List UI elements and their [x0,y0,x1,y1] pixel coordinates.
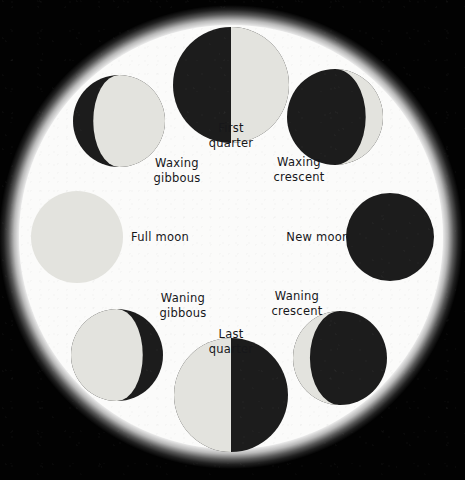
phase-label-full-moon: Full moon [131,230,189,245]
phase-label-first-quarter: Firstquarter [209,121,253,150]
phase-label-waxing-crescent: Waxingcrescent [273,155,324,184]
phase-label-waning-crescent: Waningcrescent [271,289,322,318]
phase-label-line1: First [209,121,253,136]
phase-label-line1: Waxing [153,156,200,171]
phase-label-line1: Full moon [131,230,189,245]
phase-label-line2: crescent [273,169,324,184]
moon-phase-full-moon [31,191,123,283]
phase-label-waxing-gibbous: Waxinggibbous [153,156,200,185]
phase-label-line1: Waning [271,289,322,304]
phase-label-line2: quarter [209,135,253,150]
phase-label-line1: Waning [159,291,206,306]
phase-label-last-quarter: Lastquarter [209,327,253,356]
moon-phase-waning-gibbous [71,309,163,401]
phase-label-line2: crescent [271,303,322,318]
moon-phase-new-moon [346,193,434,281]
moon-phase-waxing-crescent [287,69,383,165]
moon-phase-waxing-gibbous [73,75,165,167]
phase-label-line2: gibbous [153,170,200,185]
moon-phases-diagram: FirstquarterWaxinggibbousWaxingcrescentF… [0,0,465,480]
phase-label-line1: Last [209,327,253,342]
phase-label-line1: New moon [286,230,349,245]
phase-label-waning-gibbous: Waninggibbous [159,291,206,320]
moon-phase-waning-crescent [293,311,387,405]
phase-label-new-moon: New moon [286,230,349,245]
phase-label-line2: gibbous [159,305,206,320]
phase-label-line1: Waxing [273,155,324,170]
phase-label-line2: quarter [209,341,253,356]
